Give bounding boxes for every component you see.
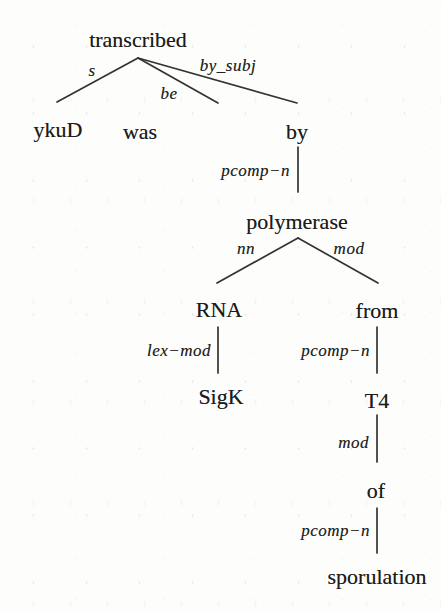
- edge-label-by-subj: by_subj: [200, 57, 256, 74]
- edge-label-be: be: [160, 85, 177, 102]
- edge-label-nn: nn: [237, 240, 255, 257]
- edge-label-pcomp-n-1: pcomp−n: [221, 162, 290, 179]
- node-sporulation: sporulation: [328, 566, 427, 588]
- edge-label-pcomp-n-2: pcomp−n: [301, 342, 370, 359]
- node-was: was: [123, 121, 157, 143]
- node-SigK: SigK: [198, 386, 243, 408]
- node-from: from: [356, 300, 399, 322]
- node-polymerase: polymerase: [246, 211, 347, 233]
- node-ykuD: ykuD: [34, 119, 83, 141]
- edge-label-mod-2: mod: [338, 434, 369, 451]
- edge-line-nn: [217, 238, 298, 283]
- node-T4: T4: [365, 390, 389, 412]
- node-RNA: RNA: [196, 299, 242, 321]
- edge-label-lex-mod: lex−mod: [147, 342, 211, 359]
- node-of: of: [367, 480, 385, 502]
- edge-label-s: s: [88, 62, 95, 79]
- edge-label-pcomp-n-3: pcomp−n: [301, 522, 370, 539]
- node-by: by: [286, 121, 308, 143]
- dependency-tree-figure: transcribed ykuD was by polymerase RNA f…: [0, 0, 441, 614]
- edge-line-s: [57, 58, 138, 102]
- edge-label-mod-1: mod: [334, 240, 365, 257]
- node-transcribed: transcribed: [89, 29, 187, 51]
